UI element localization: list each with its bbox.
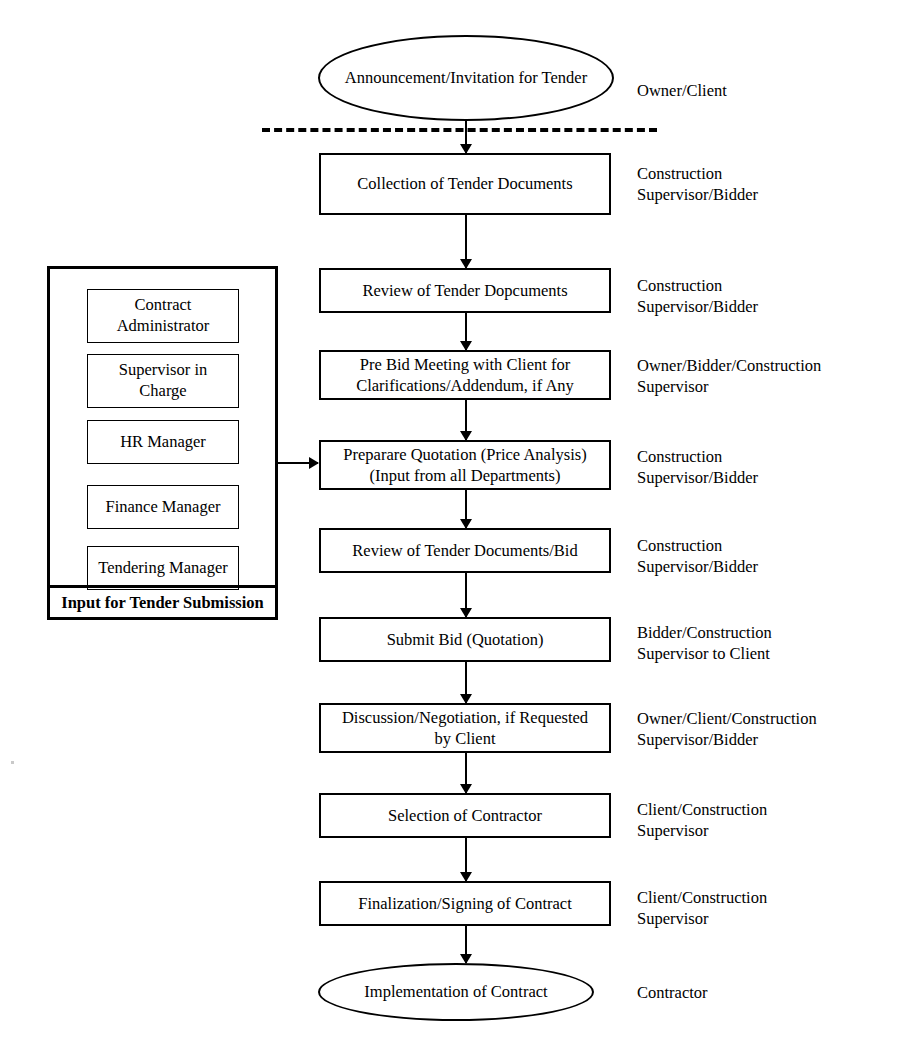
node-prepare-quotation[interactable]: Preparare Quotation (Price Analysis) (In… <box>319 440 611 490</box>
panel-item-finance-manager[interactable]: Finance Manager <box>87 485 239 529</box>
node-review-of-tender-documents-bid[interactable]: Review of Tender Documents/Bid <box>319 528 611 573</box>
node-label: Review of Tender Documents/Bid <box>352 540 577 561</box>
role-label-collection: Construction Supervisor/Bidder <box>637 163 758 206</box>
node-label: Implementation of Contract <box>364 981 547 1002</box>
node-label: Announcement/Invitation for Tender <box>345 67 587 88</box>
node-label: Discussion/Negotiation, if Requested by … <box>342 707 588 749</box>
node-label: Submit Bid (Quotation) <box>387 629 544 650</box>
connector-review-docs-to-pre-bid <box>465 313 467 350</box>
node-label: Review of Tender Dopcuments <box>362 280 567 301</box>
connector-panel-to-prepare-quotation <box>278 462 318 464</box>
connector-negotiation-to-selection <box>465 753 467 793</box>
node-collection-of-tender-documents[interactable]: Collection of Tender Documents <box>319 153 611 215</box>
node-finalization-signing-of-contract[interactable]: Finalization/Signing of Contract <box>319 881 611 926</box>
connector-prepare-quotation-to-review-bid <box>465 490 467 528</box>
scan-artifact <box>11 761 14 764</box>
role-label-review-docs: Construction Supervisor/Bidder <box>637 275 758 318</box>
input-for-tender-submission-panel: Contract Administrator Supervisor in Cha… <box>47 266 278 620</box>
role-label-prepare-quotation: Construction Supervisor/Bidder <box>637 446 758 489</box>
role-label-finalization: Client/Construction Supervisor <box>637 887 767 930</box>
role-label-pre-bid-meeting: Owner/Bidder/Construction Supervisor <box>637 355 821 398</box>
node-selection-of-contractor[interactable]: Selection of Contractor <box>319 793 611 838</box>
role-label-selection: Client/Construction Supervisor <box>637 799 767 842</box>
node-announcement[interactable]: Announcement/Invitation for Tender <box>318 35 614 121</box>
organisation-boundary-dashed-line <box>262 128 657 132</box>
panel-item-label: Contract Administrator <box>117 295 210 336</box>
panel-item-label: Supervisor in Charge <box>119 360 207 401</box>
panel-item-label: Tendering Manager <box>98 558 227 579</box>
node-label: Finalization/Signing of Contract <box>358 893 572 914</box>
connector-pre-bid-to-prepare-quotation <box>465 400 467 440</box>
panel-item-hr-manager[interactable]: HR Manager <box>87 420 239 464</box>
node-label: Pre Bid Meeting with Client for Clarific… <box>356 354 574 396</box>
node-submit-bid[interactable]: Submit Bid (Quotation) <box>319 617 611 662</box>
connector-review-bid-to-submit-bid <box>465 573 467 617</box>
node-label: Collection of Tender Documents <box>357 173 572 194</box>
flowchart-canvas: Contract Administrator Supervisor in Cha… <box>0 0 904 1055</box>
panel-item-contract-administrator[interactable]: Contract Administrator <box>87 289 239 343</box>
role-label-review-bid: Construction Supervisor/Bidder <box>637 535 758 578</box>
node-pre-bid-meeting[interactable]: Pre Bid Meeting with Client for Clarific… <box>319 350 611 400</box>
node-label: Selection of Contractor <box>388 805 542 826</box>
panel-item-label: HR Manager <box>120 432 206 453</box>
panel-item-tendering-manager[interactable]: Tendering Manager <box>87 546 239 590</box>
panel-item-supervisor-in-charge[interactable]: Supervisor in Charge <box>87 354 239 408</box>
connector-finalization-to-implementation <box>465 926 467 963</box>
node-discussion-negotiation[interactable]: Discussion/Negotiation, if Requested by … <box>319 703 611 753</box>
node-label: Preparare Quotation (Price Analysis) (In… <box>343 444 586 486</box>
role-label-implementation: Contractor <box>637 982 708 1003</box>
connector-collection-to-review-docs <box>465 215 467 268</box>
role-label-submit-bid: Bidder/Construction Supervisor to Client <box>637 622 772 665</box>
panel-item-label: Finance Manager <box>106 497 221 518</box>
node-review-of-tender-documents[interactable]: Review of Tender Dopcuments <box>319 268 611 313</box>
connector-selection-to-finalization <box>465 838 467 881</box>
role-label-announcement: Owner/Client <box>637 80 727 101</box>
role-label-negotiation: Owner/Client/Construction Supervisor/Bid… <box>637 708 817 751</box>
connector-submit-bid-to-negotiation <box>465 662 467 703</box>
connector-announcement-to-collection <box>465 121 467 153</box>
input-panel-footer-label: Input for Tender Submission <box>50 585 275 617</box>
node-implementation-of-contract[interactable]: Implementation of Contract <box>318 963 594 1021</box>
